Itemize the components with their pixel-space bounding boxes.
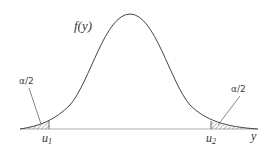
- u1-label: u1: [42, 131, 52, 146]
- left-tail-pointer: [29, 88, 41, 124]
- right-tail-pointer: [218, 96, 240, 125]
- curve-label: f(y): [74, 18, 92, 33]
- left-tail-label: α/2: [19, 76, 34, 86]
- u2-label: u2: [206, 131, 216, 146]
- normal-distribution-diagram: f(y) α/2 α/2 u1 u2 y: [0, 0, 275, 150]
- axis-label-y: y: [250, 129, 257, 143]
- density-curve: [20, 14, 258, 129]
- right-tail-label: α/2: [231, 84, 246, 94]
